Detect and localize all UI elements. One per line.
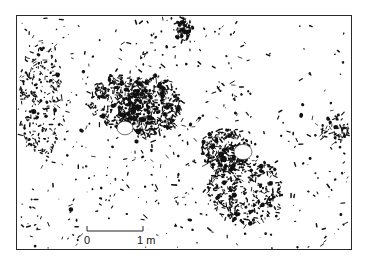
scale-start-label: 0 (84, 235, 90, 246)
scale-end-label: 1 m (137, 235, 155, 246)
hearth-void-lower (234, 144, 252, 159)
artifact-scatter (0, 0, 372, 262)
distribution-plan-figure: 0 1 m (0, 0, 372, 262)
hearth-void-upper (117, 121, 133, 135)
